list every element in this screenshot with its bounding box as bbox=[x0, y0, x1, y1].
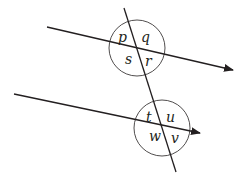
transversal-line bbox=[124, 8, 176, 172]
angle-label-t: t bbox=[146, 109, 152, 125]
angle-label-w: w bbox=[149, 128, 161, 144]
angle-diagram: p q s r t u w v bbox=[0, 0, 242, 180]
angle-label-r: r bbox=[145, 53, 153, 69]
angle-label-p: p bbox=[118, 29, 127, 45]
angle-label-v: v bbox=[171, 130, 179, 146]
angle-label-u: u bbox=[166, 109, 175, 125]
angle-label-s: s bbox=[125, 51, 132, 67]
angle-label-q: q bbox=[141, 29, 150, 45]
upper-parallel-line bbox=[47, 27, 233, 70]
